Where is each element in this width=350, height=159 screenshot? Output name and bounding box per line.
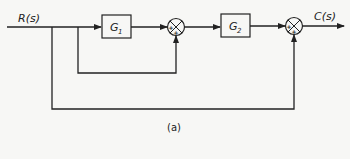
- block-g1-subscript: 1: [118, 28, 122, 36]
- output-label: C(s): [314, 10, 336, 23]
- block-g2: G 2: [221, 14, 250, 37]
- input-label: R(s): [18, 12, 40, 25]
- output-signal: C(s): [303, 10, 344, 26]
- summing-junction-1: + +: [168, 19, 185, 37]
- sum2-sign-bottom: +: [292, 28, 297, 35]
- input-signal: R(s): [7, 12, 101, 27]
- block-g2-subscript: 2: [237, 27, 242, 35]
- diagram-canvas: R(s) G 1 + + G 2: [0, 0, 350, 159]
- outer-feedforward-path: [52, 27, 294, 109]
- sum1-sign-bottom: +: [174, 29, 179, 36]
- summing-junction-2: + +: [286, 18, 303, 36]
- figure-caption: (a): [167, 122, 181, 133]
- block-diagram: R(s) G 1 + + G 2: [0, 0, 350, 159]
- block-g1: G 1: [102, 15, 131, 38]
